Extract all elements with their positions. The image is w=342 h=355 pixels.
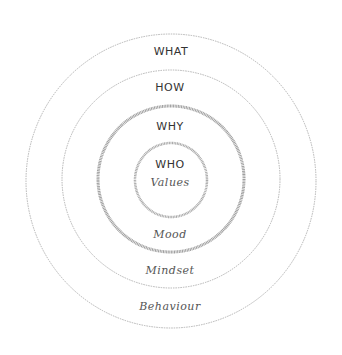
label-what: WHAT — [154, 45, 189, 58]
concentric-circles-diagram: WHAT HOW WHY WHO Values Mood Mindset Beh… — [0, 0, 342, 355]
label-why: WHY — [156, 120, 183, 133]
label-values: Values — [150, 176, 189, 189]
label-behaviour: Behaviour — [139, 300, 200, 313]
label-mindset: Mindset — [146, 264, 195, 277]
label-how: HOW — [155, 81, 184, 94]
label-who: WHO — [155, 158, 184, 171]
label-mood: Mood — [153, 228, 187, 241]
